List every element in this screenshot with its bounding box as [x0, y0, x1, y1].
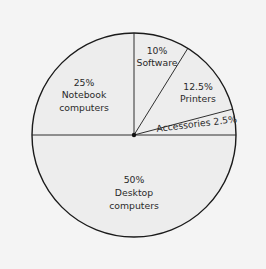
notebook-name-label-2: computers: [59, 102, 109, 113]
software-pct-label: 10%: [147, 45, 168, 56]
desktop-pct-label: 50%: [124, 174, 145, 185]
desktop-name-label-2: computers: [109, 200, 159, 211]
printers-pct-label: 12.5%: [183, 81, 213, 92]
center-dot: [132, 133, 136, 137]
printers-name-label: Printers: [180, 93, 216, 104]
software-name-label: Software: [137, 57, 178, 68]
desktop-name-label-1: Desktop: [115, 187, 153, 198]
notebook-name-label-1: Notebook: [62, 89, 107, 100]
notebook-pct-label: 25%: [74, 77, 95, 88]
pie-chart: 10% Software 12.5% Printers Accessories …: [0, 0, 266, 269]
